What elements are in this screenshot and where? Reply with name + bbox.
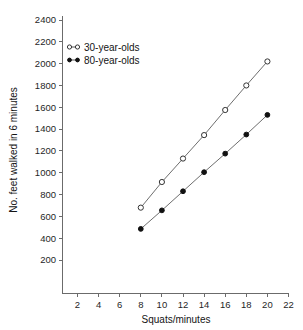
data-series-group xyxy=(138,59,270,231)
y-tick-label: 1000 xyxy=(35,167,56,178)
chart-legend: 30-year-olds80-year-olds xyxy=(67,42,139,66)
x-tick-label: 20 xyxy=(262,299,273,310)
legend-marker xyxy=(75,45,79,49)
y-tick-label: 2000 xyxy=(35,58,56,69)
data-point-marker xyxy=(180,156,185,161)
data-point-marker xyxy=(223,107,228,112)
data-point-marker xyxy=(159,179,164,184)
data-point-marker xyxy=(202,170,207,175)
data-point-marker xyxy=(181,189,186,194)
chart-container: 2004006008001000120014001600180020002200… xyxy=(0,0,303,330)
y-tick-label: 200 xyxy=(40,254,56,265)
y-tick-label: 1200 xyxy=(35,145,56,156)
legend-marker xyxy=(67,45,71,49)
x-tick-label: 16 xyxy=(220,299,231,310)
data-point-marker xyxy=(138,205,143,210)
data-point-marker xyxy=(265,113,270,118)
line-chart: 2004006008001000120014001600180020002200… xyxy=(0,0,303,330)
x-axis-title: Squats/minutes xyxy=(142,314,211,325)
x-tick-label: 22 xyxy=(283,299,294,310)
y-tick-label: 400 xyxy=(40,233,56,244)
data-point-marker xyxy=(244,83,249,88)
y-tick-label: 1400 xyxy=(35,123,56,134)
data-point-marker xyxy=(202,132,207,137)
y-axis: 2004006008001000120014001600180020002200… xyxy=(35,14,63,293)
legend-item: 80-year-olds xyxy=(68,55,140,66)
y-tick-label: 2400 xyxy=(35,14,56,25)
x-tick-label: 10 xyxy=(157,299,168,310)
y-tick-label: 2200 xyxy=(35,36,56,47)
y-tick-label: 1800 xyxy=(35,80,56,91)
data-point-marker xyxy=(223,151,228,156)
x-tick-label: 6 xyxy=(117,299,122,310)
legend-label: 30-year-olds xyxy=(84,42,140,53)
x-tick-label: 8 xyxy=(138,299,143,310)
data-point-marker xyxy=(244,132,249,137)
data-series xyxy=(138,59,270,210)
y-axis-title: No. feet walked in 6 minutes xyxy=(8,87,19,213)
legend-marker xyxy=(76,58,80,62)
legend-item: 30-year-olds xyxy=(67,42,139,53)
x-tick-label: 18 xyxy=(241,299,252,310)
data-point-marker xyxy=(160,208,165,213)
y-tick-label: 600 xyxy=(40,211,56,222)
data-series xyxy=(138,113,269,232)
legend-label: 80-year-olds xyxy=(84,55,140,66)
y-tick-label: 1600 xyxy=(35,102,56,113)
x-tick-label: 4 xyxy=(96,299,101,310)
x-tick-label: 2 xyxy=(75,299,80,310)
x-tick-label: 14 xyxy=(199,299,210,310)
x-axis: 246810121416182022 xyxy=(63,294,294,310)
data-point-marker xyxy=(138,227,143,232)
data-point-marker xyxy=(265,59,270,64)
x-tick-label: 12 xyxy=(178,299,189,310)
y-tick-label: 800 xyxy=(40,189,56,200)
legend-marker xyxy=(68,58,72,62)
